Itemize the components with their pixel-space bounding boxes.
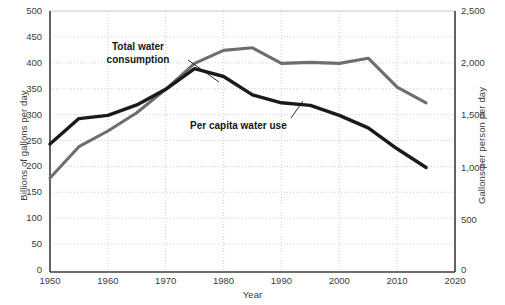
x-tick-1960: 1960	[85, 275, 131, 286]
y-left-tick-500: 500	[8, 5, 42, 16]
per-capita-water-use-label: Per capita water use	[190, 120, 287, 133]
x-tick-1980: 1980	[201, 275, 247, 286]
y-left-tick-450: 450	[8, 31, 42, 42]
x-axis-title: Year	[0, 289, 505, 300]
y-right-tick-0: 0	[461, 264, 501, 275]
x-tick-2020: 2020	[432, 275, 478, 286]
y-axis-right-title: Gallons per person per day	[476, 76, 487, 216]
chart-canvas	[0, 0, 505, 305]
x-tick-1990: 1990	[258, 275, 304, 286]
x-tick-1970: 1970	[143, 275, 189, 286]
water-use-line-chart: 500 450 400 350 300 250 200 150 100 50 0…	[0, 0, 505, 305]
y-right-tick-2500: 2,500	[461, 5, 501, 16]
total-water-consumption-label-line1: Total water	[90, 41, 186, 54]
x-tick-2000: 2000	[316, 275, 362, 286]
total-water-consumption-label: Total water consumption	[90, 41, 186, 66]
total-water-consumption-label-line2: consumption	[90, 54, 186, 67]
x-tick-2010: 2010	[374, 275, 420, 286]
y-left-tick-0: 0	[8, 264, 42, 275]
y-left-tick-50: 50	[8, 238, 42, 249]
x-tick-1950: 1950	[27, 275, 73, 286]
y-right-tick-2000: 2,000	[461, 57, 501, 68]
y-axis-left-title: Billions of gallons per day	[18, 76, 29, 216]
y-left-tick-400: 400	[8, 57, 42, 68]
